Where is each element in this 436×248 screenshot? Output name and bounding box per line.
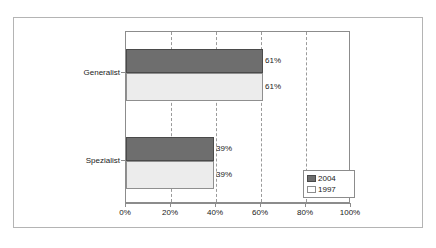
bar-generalist-1997[interactable] (126, 73, 263, 101)
legend-label-1997: 1997 (318, 185, 336, 194)
x-tick-80 (305, 203, 306, 207)
value-label-generalist-1997: 61% (265, 82, 281, 91)
x-tick-label-0: 0% (105, 208, 145, 217)
x-tick-20 (170, 203, 171, 207)
bar-spezialist-1997[interactable] (126, 161, 214, 189)
legend-item-1997[interactable]: 1997 (307, 184, 354, 195)
value-label-spezialist-2004: 39% (216, 144, 232, 153)
bar-spezialist-2004[interactable] (126, 137, 214, 161)
x-tick-60 (260, 203, 261, 207)
x-tick-label-20: 20% (150, 208, 190, 217)
legend-swatch-2004-icon (307, 175, 316, 182)
legend-swatch-1997-icon (307, 186, 316, 193)
x-axis-line (125, 203, 351, 204)
chart-legend: 2004 1997 (303, 170, 355, 198)
x-tick-label-100: 100% (330, 208, 370, 217)
value-label-generalist-2004: 61% (265, 56, 281, 65)
x-tick-100 (350, 203, 351, 207)
x-tick-40 (215, 203, 216, 207)
legend-item-2004[interactable]: 2004 (307, 173, 354, 184)
category-label-generalist: Generalist (62, 68, 120, 77)
bar-generalist-2004[interactable] (126, 49, 263, 73)
x-tick-label-40: 40% (195, 208, 235, 217)
legend-label-2004: 2004 (318, 174, 336, 183)
x-tick-label-60: 60% (240, 208, 280, 217)
bar-chart: 61% 61% 39% 39% Generalist Spezialist 0%… (0, 0, 436, 248)
category-label-spezialist: Spezialist (62, 156, 120, 165)
category-tick-generalist (121, 72, 125, 73)
x-tick-0 (125, 203, 126, 207)
category-tick-spezialist (121, 160, 125, 161)
value-label-spezialist-1997: 39% (216, 170, 232, 179)
x-tick-label-80: 80% (285, 208, 325, 217)
